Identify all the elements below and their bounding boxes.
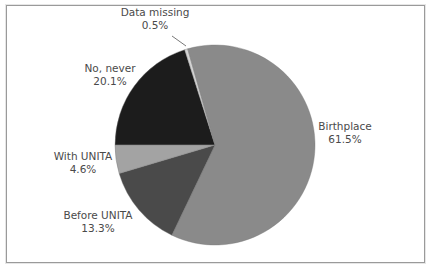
pie-slices bbox=[115, 45, 315, 245]
label-no-never: No, never 20.1% bbox=[84, 62, 135, 88]
label-data-missing: Data missing 0.5% bbox=[121, 6, 190, 32]
label-before-unita: Before UNITA 13.3% bbox=[63, 209, 132, 235]
label-data-missing-name: Data missing bbox=[121, 6, 190, 19]
label-no-never-name: No, never bbox=[84, 62, 135, 75]
label-before-unita-name: Before UNITA bbox=[63, 209, 132, 222]
label-birthplace-name: Birthplace bbox=[318, 120, 371, 133]
label-birthplace-pct: 61.5% bbox=[318, 133, 371, 146]
label-before-unita-pct: 13.3% bbox=[63, 222, 132, 235]
label-with-unita: With UNITA 4.6% bbox=[54, 150, 113, 176]
label-with-unita-name: With UNITA bbox=[54, 150, 113, 163]
label-birthplace: Birthplace 61.5% bbox=[318, 120, 371, 146]
label-data-missing-pct: 0.5% bbox=[121, 19, 190, 32]
data-missing-leader-line bbox=[172, 36, 186, 46]
label-with-unita-pct: 4.6% bbox=[54, 163, 113, 176]
label-no-never-pct: 20.1% bbox=[84, 75, 135, 88]
